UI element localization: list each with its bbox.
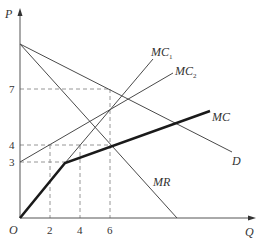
demand-label: D: [231, 154, 241, 168]
y-axis-arrow-icon: [18, 8, 23, 16]
marginal-revenue-label: MR: [152, 175, 171, 189]
y-axis-label: P: [4, 7, 13, 21]
mc1-label-main: MC: [150, 45, 170, 59]
mc-total-label: MC: [211, 110, 231, 124]
demand-curve: [20, 44, 232, 152]
y-tick-3: 3: [9, 156, 15, 168]
y-tick-7: 7: [9, 83, 15, 95]
mc1-label-sub: 1: [169, 53, 173, 61]
mc2-curve: [20, 73, 173, 162]
y-tick-4: 4: [9, 139, 15, 151]
curves: [20, 44, 232, 218]
mc2-label-main: MC: [174, 64, 194, 78]
economics-diagram: P Q O 2 4 6 3 4 7 D MR MC MC1 MC2: [0, 0, 262, 242]
origin-label: O: [9, 223, 18, 237]
x-tick-4: 4: [77, 224, 83, 236]
mc1-label: MC1: [150, 45, 173, 61]
mc-total-curve: [20, 111, 210, 218]
mc2-label-sub: 2: [193, 72, 197, 80]
x-axis-label: Q: [245, 225, 254, 239]
x-tick-6: 6: [107, 224, 113, 236]
guide-lines: [20, 89, 110, 218]
mc2-label: MC2: [174, 64, 197, 80]
x-axis-arrow-icon: [248, 216, 256, 221]
x-tick-2: 2: [47, 224, 53, 236]
